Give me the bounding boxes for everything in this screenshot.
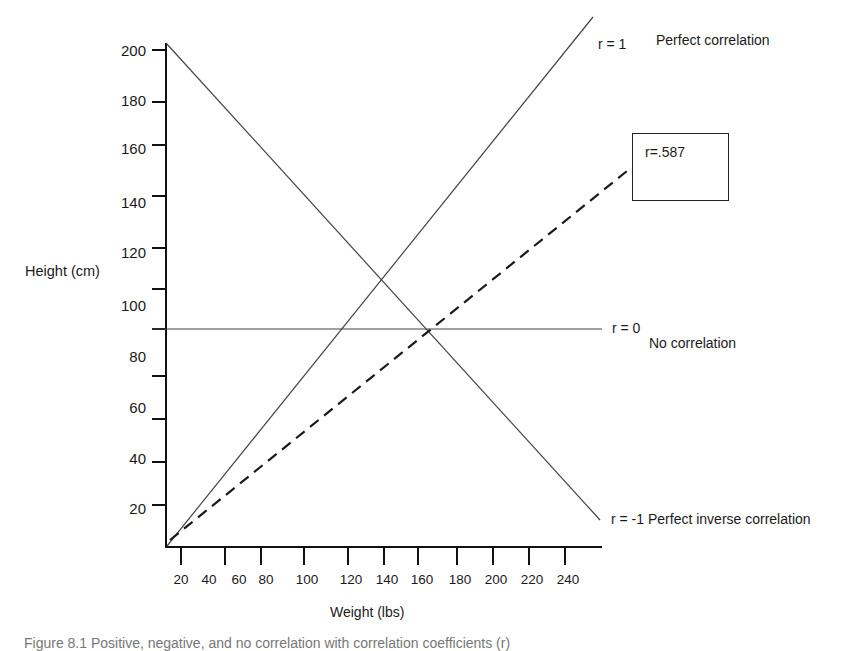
y-tick-label: 180 (106, 93, 146, 108)
x-tick-label: 200 (478, 573, 514, 587)
figure-caption-partial: Figure 8.1 Positive, negative, and no co… (24, 636, 510, 650)
y-tick-label: 60 (106, 400, 146, 415)
x-tick-label: 180 (442, 573, 478, 587)
r0-label: r = 0 (612, 321, 640, 335)
x-tick-label: 220 (514, 573, 550, 587)
y-tick-label: 120 (106, 245, 146, 260)
x-tick-label: 240 (550, 573, 586, 587)
x-tick-label: 140 (369, 573, 405, 587)
perfect-correlation-label: Perfect correlation (656, 33, 770, 47)
x-tick-label: 160 (404, 573, 440, 587)
r587-label: r=.587 (645, 145, 685, 159)
y-tick-label: 140 (106, 195, 146, 210)
x-ticks (181, 547, 565, 565)
no-correlation-label: No correlation (649, 336, 736, 350)
x-tick-label: 80 (248, 573, 284, 587)
line-r-587-dashed (170, 167, 632, 540)
line-r-neg1 (166, 43, 600, 520)
y-tick-label: 100 (106, 298, 146, 313)
y-tick-label: 160 (106, 141, 146, 156)
y-tick-label: 20 (106, 501, 146, 516)
x-tick-label: 100 (289, 573, 325, 587)
y-ticks (152, 50, 166, 505)
y-axis-title: Height (cm) (25, 264, 100, 279)
x-tick-label: 120 (333, 573, 369, 587)
r-neg1-label: r = -1 Perfect inverse correlation (611, 512, 811, 526)
y-tick-label: 80 (106, 349, 146, 364)
y-tick-label: 40 (106, 451, 146, 466)
y-tick-label: 200 (106, 43, 146, 58)
x-axis-title: Weight (lbs) (330, 605, 404, 619)
r1-label: r = 1 (598, 37, 626, 51)
line-r-1 (167, 17, 593, 546)
